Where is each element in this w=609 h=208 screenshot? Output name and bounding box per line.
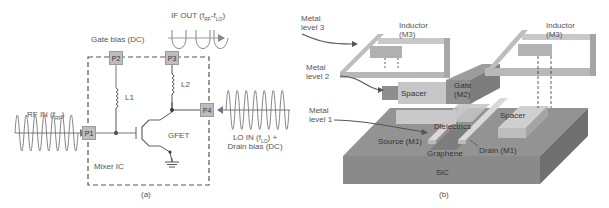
l2-label: L2 xyxy=(181,80,190,89)
mixer-ic-label: Mixer IC xyxy=(94,162,124,171)
sic-label: SiC xyxy=(436,168,449,177)
if-arrow-icon xyxy=(218,34,225,42)
gate-bias-label: Gate bias (DC) xyxy=(91,35,144,44)
spacer-right-label: Spacer xyxy=(500,111,525,120)
inductor-right-label: Inductor(M3) xyxy=(546,21,575,39)
metal-level-3-arrow-icon xyxy=(302,34,352,44)
metal-level-1-label: Metallevel 1 xyxy=(309,106,332,124)
drain-bias-label: Drain bias (DC) xyxy=(226,142,284,151)
inductor-l2-icon xyxy=(172,74,174,94)
metal-level-2-arrow-icon xyxy=(340,76,380,90)
inductor-left-label: Inductor(M3) xyxy=(399,21,428,39)
lo-arrow-icon xyxy=(217,106,223,114)
dielectrics-label: Dielectrics xyxy=(434,122,471,131)
drain-m1-label: Drain (M1) xyxy=(479,146,517,155)
l1-label: L1 xyxy=(125,93,134,102)
gate-m2-label: Gate(M2) xyxy=(454,81,471,99)
caption-a: (a) xyxy=(141,190,151,199)
port-p4: P4 xyxy=(200,103,214,117)
source-m1-label: Source (M1) xyxy=(378,137,422,146)
metal-level-3-label: Metallevel 3 xyxy=(301,14,324,32)
graphene-label: Graphene xyxy=(427,149,463,158)
inductor-l1-icon xyxy=(116,88,118,108)
port-p3: P3 xyxy=(165,51,179,65)
port-p1: P1 xyxy=(82,126,96,140)
port-p2: P2 xyxy=(109,51,123,65)
spacer-left-label: Spacer xyxy=(401,89,426,98)
caption-b: (b) xyxy=(439,190,449,199)
if-out-label: IF OUT (fRF-fLO) xyxy=(171,11,225,24)
gfet-channel-icon xyxy=(142,120,160,146)
gfet-label: GFET xyxy=(168,131,189,140)
rf-in-label: RF IN (fRF) xyxy=(27,110,64,123)
metal-level-2-label: Metallevel 2 xyxy=(306,63,329,81)
